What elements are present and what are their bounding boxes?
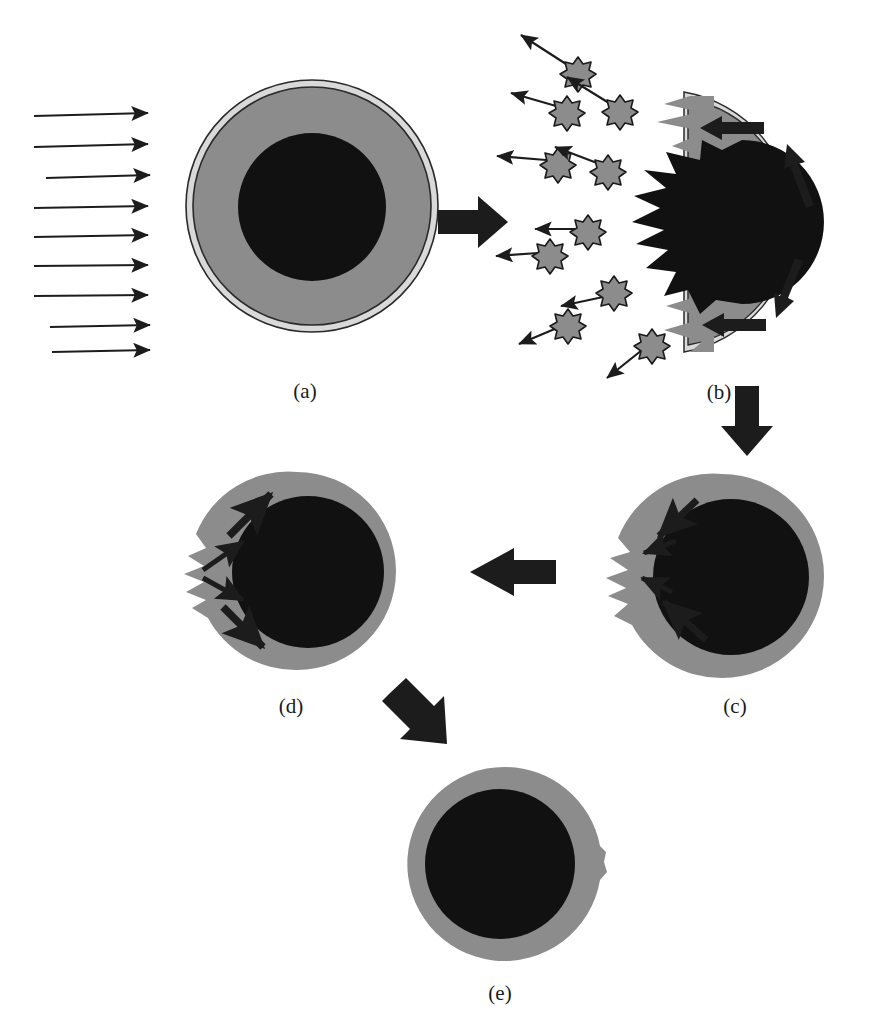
particle-1 bbox=[521, 35, 596, 92]
arrow-a-to-b bbox=[438, 196, 508, 248]
particle-9-arrow bbox=[519, 328, 557, 344]
panel-e-core bbox=[425, 789, 575, 939]
panel-a-core bbox=[238, 133, 386, 281]
particle-7-star bbox=[532, 239, 568, 274]
particle-1-arrow bbox=[521, 35, 566, 64]
particle-3-star bbox=[549, 96, 585, 131]
block-arrow-left bbox=[470, 548, 556, 596]
particle-4 bbox=[497, 148, 576, 183]
particle-3-arrow bbox=[511, 93, 556, 106]
beam-arrow-4 bbox=[34, 206, 148, 208]
beam-arrow-3 bbox=[46, 175, 150, 178]
particle-9 bbox=[519, 309, 586, 344]
particle-1-star bbox=[560, 57, 596, 92]
particle-3 bbox=[511, 93, 585, 131]
particle-2-star bbox=[602, 95, 638, 130]
ejected-particles bbox=[496, 35, 670, 378]
beam-arrow-1 bbox=[34, 113, 148, 116]
particle-5-star bbox=[590, 155, 626, 190]
panel-d-core bbox=[232, 496, 384, 648]
panel-a: (a) bbox=[34, 80, 438, 403]
beam-arrow-6 bbox=[34, 265, 148, 266]
panel-e: (e) bbox=[407, 767, 607, 1005]
panel-label-e: (e) bbox=[488, 981, 511, 1005]
block-arrow-down-right bbox=[382, 678, 447, 744]
particle-7 bbox=[496, 239, 568, 274]
panel-c: (c) bbox=[606, 474, 824, 718]
beam-arrow-5 bbox=[34, 235, 148, 237]
particle-10 bbox=[607, 329, 670, 378]
particle-6-star bbox=[570, 215, 606, 250]
block-arrow-right bbox=[438, 196, 508, 248]
beam-arrow-8 bbox=[50, 325, 150, 327]
arrow-d-to-e bbox=[382, 678, 447, 744]
beam-arrow-9 bbox=[52, 350, 150, 352]
beam-arrow-7 bbox=[34, 295, 148, 296]
ablation-sequence-diagram: (a) bbox=[0, 0, 882, 1035]
particle-8-star bbox=[596, 276, 632, 311]
panel-label-a: (a) bbox=[293, 379, 316, 403]
particle-10-star bbox=[634, 329, 670, 364]
particle-10-arrow bbox=[607, 350, 642, 378]
panel-label-c: (c) bbox=[723, 694, 746, 718]
panel-label-d: (d) bbox=[279, 694, 304, 718]
arrow-c-to-d bbox=[470, 548, 556, 596]
panel-d: (d) bbox=[184, 472, 396, 718]
panel-b: (b) bbox=[496, 35, 824, 404]
particle-9-star bbox=[550, 309, 586, 344]
incident-beam-arrows bbox=[34, 113, 150, 352]
panel-label-b: (b) bbox=[707, 380, 732, 404]
figure-root: (a) bbox=[0, 0, 882, 1035]
particle-8-arrow bbox=[561, 297, 603, 306]
particle-8 bbox=[561, 276, 632, 311]
beam-arrow-2 bbox=[34, 144, 148, 147]
particle-4-arrow bbox=[497, 156, 546, 160]
